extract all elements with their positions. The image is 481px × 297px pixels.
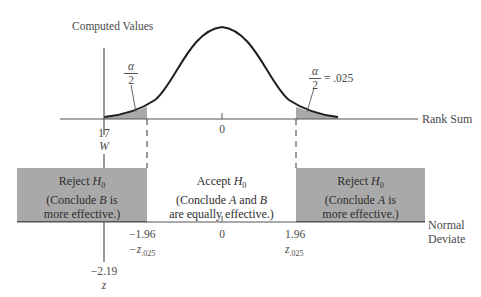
reject-right-region: Reject H0 (Conclude A is more effective.…	[296, 168, 425, 222]
right-alpha-fraction: α 2 = .025	[309, 65, 353, 92]
bottom-zero-tick-label: 0	[215, 228, 229, 241]
w-value-label: 17	[94, 127, 114, 140]
computed-values-label: Computed Values	[72, 20, 136, 33]
diagram-graphics	[0, 0, 481, 297]
z-observed-symbol: z	[94, 279, 114, 292]
z-observed-value: −2.19	[86, 265, 122, 278]
neg-crit-symbol: −z.025	[129, 243, 155, 260]
normal-deviate-label: Normal Deviate	[428, 218, 465, 246]
neg-crit-value: −1.96	[129, 228, 156, 241]
left-alpha-fraction: α 2	[124, 60, 138, 87]
pos-crit-value: 1.96	[285, 228, 305, 241]
accept-region: Accept H0 (Conclude A and B are equally …	[147, 168, 296, 221]
normal-curve	[104, 27, 338, 117]
w-symbol-label: W	[94, 140, 114, 153]
reject-left-region: Reject H0 (Conclude B is more effective.…	[17, 168, 147, 222]
rank-sum-label: Rank Sum	[422, 113, 472, 126]
top-zero-tick-label: 0	[215, 123, 229, 136]
pos-crit-symbol: z.025	[285, 243, 303, 260]
